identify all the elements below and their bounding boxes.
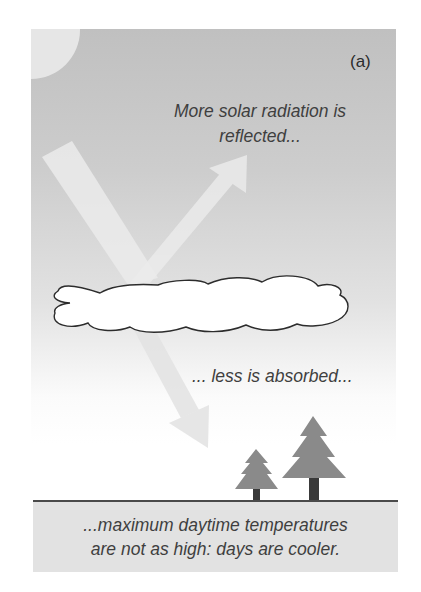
incoming-radiation-arrow: [42, 141, 158, 285]
transmitted-radiation-arrow: [134, 328, 209, 448]
reflected-radiation-arrow: [128, 155, 247, 285]
panel-label: (a): [350, 52, 371, 72]
ground-caption-line-2: are not as high: days are cooler.: [33, 537, 398, 561]
sun-icon: [0, 0, 80, 79]
reflected-caption-line-1: More solar radiation is: [140, 99, 380, 124]
small-tree-icon: [235, 449, 278, 501]
ground-caption-line-1: ...maximum daytime temperatures: [33, 513, 398, 537]
large-tree-icon: [282, 416, 346, 501]
reflected-caption: More solar radiation is reflected...: [140, 99, 380, 149]
absorbed-caption: ... less is absorbed...: [192, 366, 353, 387]
cloud-icon: [54, 276, 348, 332]
ground-line: [33, 500, 398, 502]
reflected-caption-line-2: reflected...: [140, 124, 380, 149]
ground-caption: ...maximum daytime temperatures are not …: [33, 513, 398, 561]
